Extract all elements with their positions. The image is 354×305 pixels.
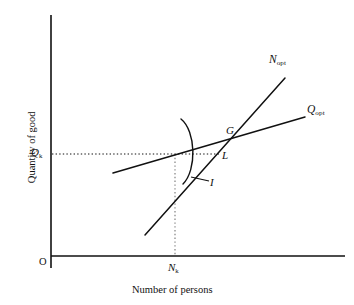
curve-label-q-opt-subscript: opt	[315, 109, 324, 117]
point-label-l: L	[222, 150, 228, 161]
y-axis-title: Quantity of good	[27, 87, 38, 207]
x-axis-title: Number of persons	[132, 285, 212, 296]
series-line-n-opt	[145, 78, 285, 235]
curve-label-n-opt-base: N	[269, 53, 277, 65]
curve-label-q-opt: Qopt	[307, 104, 325, 117]
x-tick-label-nk: Nk	[168, 262, 179, 274]
curve-label-n-opt: Nopt	[269, 54, 286, 67]
point-label-g: G	[226, 125, 234, 136]
x-tick-label-nk-subscript: k	[175, 267, 179, 274]
curve-label-n-opt-subscript: opt	[277, 59, 286, 67]
series-line-q-opt	[113, 117, 305, 173]
origin-label: O	[39, 257, 47, 268]
y-tick-label-qk-subscript: k	[39, 152, 43, 159]
chart-plot-area	[0, 0, 354, 305]
chart-figure: Nopt Qopt G L I Qk Nk O Number of person…	[0, 0, 354, 305]
point-label-i: I	[210, 177, 214, 188]
